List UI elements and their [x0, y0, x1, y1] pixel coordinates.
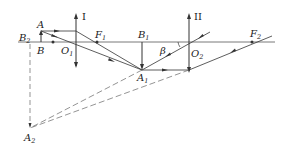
label-O1: O1: [61, 45, 73, 58]
focal-point-F2: [251, 41, 254, 44]
virtual-ray-1: [30, 70, 142, 128]
label-B: B: [36, 45, 44, 56]
intermediate-image-arrow: [140, 42, 144, 70]
beta-angle-arc: [178, 42, 180, 47]
label-beta: β: [159, 45, 166, 56]
label-F2: F2: [249, 28, 261, 41]
label-O2: O2: [191, 48, 203, 61]
label-A2: A2: [23, 132, 35, 145]
focal-point-left-lens1: [52, 41, 55, 44]
ray-through-focus: [76, 31, 142, 70]
label-lens2: II: [194, 11, 202, 22]
label-B2: B2: [18, 32, 31, 45]
optics-diagram: I II A B B2 O1 F1 B1 A1 β O2 F2 A2: [0, 0, 288, 148]
label-A: A: [36, 19, 44, 30]
label-F1: F1: [94, 29, 106, 42]
lens-1: [74, 13, 78, 68]
label-lens1: I: [82, 11, 86, 22]
label-A1: A1: [136, 72, 148, 85]
virtual-ray-2: [30, 70, 189, 128]
label-B1: B1: [137, 29, 150, 42]
